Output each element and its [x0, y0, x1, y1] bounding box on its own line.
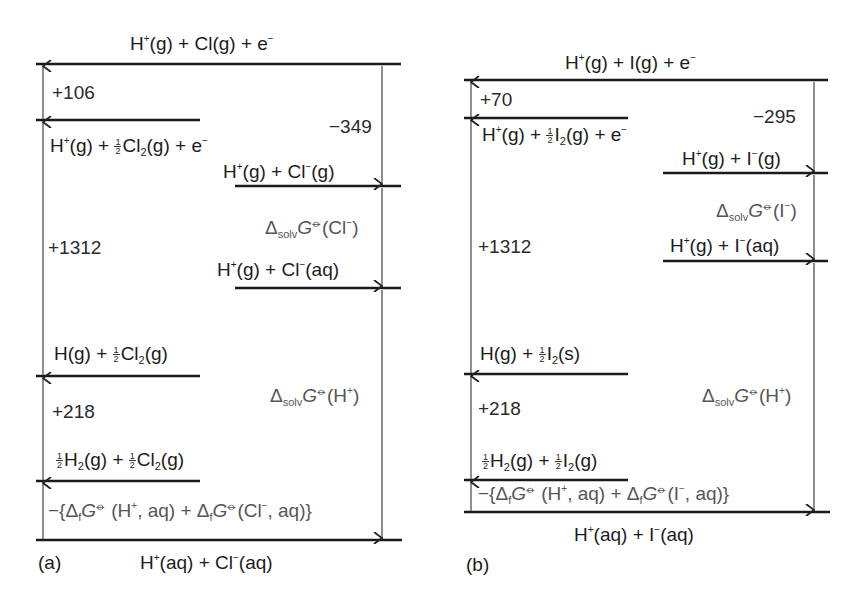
text: (g) + e	[147, 135, 202, 156]
solv-cation-label-b: ΔsolvG⦵(H+)	[702, 385, 791, 407]
value-b-1312: +1312	[478, 236, 531, 258]
text: (g) +	[70, 135, 115, 156]
fraction-half: 12	[539, 346, 546, 363]
solv-anion-label-a: ΔsolvG⦵(Cl−)	[265, 217, 359, 239]
panel-a-tag: (a)	[38, 552, 61, 574]
solv-anion-label-b: ΔsolvG⦵(I−)	[716, 200, 797, 222]
level-a-5-label: H(g) + 12Cl2(g)	[54, 343, 168, 365]
value-a-349: −349	[329, 116, 372, 138]
value-b-70: +70	[480, 89, 512, 111]
panel-b-arrows	[471, 82, 814, 511]
fraction-half: 12	[129, 452, 136, 469]
level-a-2-label: H+(g) + 12Cl2(g) + e−	[50, 135, 208, 157]
value-a-218: +218	[52, 401, 95, 423]
value-b-218: +218	[478, 398, 521, 420]
text: H	[130, 33, 144, 54]
level-b-bottom-label: H+(aq) + I−(aq)	[574, 524, 694, 546]
fraction-half: 12	[113, 346, 120, 363]
value-a-106: +106	[52, 82, 95, 104]
fraction-half: 12	[546, 127, 553, 144]
fraction-half: 12	[56, 452, 63, 469]
text: Cl	[122, 135, 140, 156]
solv-cation-label-a: ΔsolvG⦵(H+)	[270, 385, 359, 407]
level-a-top-label: H+(g) + Cl(g) + e−	[130, 33, 274, 55]
level-a-3-label: H+(g) + Cl−(g)	[223, 161, 334, 183]
level-a-6-label: 12H2(g) + 12Cl2(g)	[56, 449, 184, 471]
fraction-half: 12	[555, 453, 562, 470]
text: −	[202, 135, 208, 146]
value-b-295: −295	[753, 106, 796, 128]
formation-label-b: −{ΔfG⦵ (H+, aq) + ΔfG⦵(I−, aq)}	[478, 483, 729, 505]
level-b-2-label: H+(g) + 12I2(g) + e−	[482, 124, 627, 146]
level-b-5-label: H(g) + 12I2(s)	[480, 343, 580, 365]
level-b-6-label: 12H2(g) + 12I2(g)	[482, 450, 597, 472]
value-a-1312: +1312	[48, 237, 101, 259]
level-a-4-label: H+(g) + Cl−(aq)	[217, 259, 339, 281]
text: −	[268, 33, 274, 44]
level-a-bottom-label: H+(aq) + Cl−(aq)	[140, 552, 273, 574]
level-b-4-label: H+(g) + I−(aq)	[670, 235, 779, 257]
fraction-half: 12	[114, 138, 121, 155]
level-b-3-label: H+(g) + I−(g)	[682, 148, 781, 170]
formation-label-a: −{ΔfG⦵ (H+, aq) + ΔfG⦵(Cl−, aq)}	[48, 500, 312, 522]
panel-b-tag: (b)	[466, 554, 489, 576]
fraction-half: 12	[482, 453, 489, 470]
level-b-top-label: H+(g) + I(g) + e−	[565, 52, 696, 74]
text: (g) + Cl(g) + e	[150, 33, 268, 54]
text: H	[50, 135, 64, 156]
